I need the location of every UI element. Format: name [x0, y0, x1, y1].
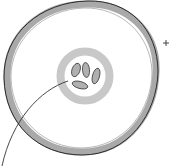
organism-1 — [70, 62, 82, 78]
cell-membrane — [4, 1, 158, 155]
organisms — [70, 62, 102, 90]
organism-3 — [91, 67, 102, 84]
organism-4 — [71, 80, 88, 91]
cell-diagram — [0, 0, 173, 166]
organism-2 — [82, 62, 90, 78]
plus-marker-icon — [163, 40, 169, 46]
